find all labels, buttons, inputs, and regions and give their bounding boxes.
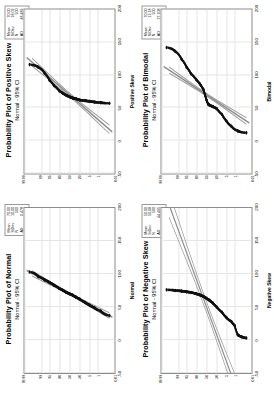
stat-row: Mean50.00 (143, 207, 147, 235)
y-axis-label-wrap: Percent (23, 392, 115, 393)
y-tick-label: 0.01 (250, 175, 254, 181)
x-tick-label: 200 (253, 4, 259, 11)
x-tick-label: 100 (253, 270, 259, 277)
panel-cell-normal: Probability Plot of NormalNormal - 95% C… (0, 199, 137, 399)
plot-area (160, 8, 252, 174)
rotated-panel-normal: Probability Plot of NormalNormal - 95% C… (0, 199, 137, 399)
rotated-panel-positive-skew: Probability Plot of Positive SkewNormal … (0, 0, 137, 199)
y-tick-label: 1 (233, 175, 237, 177)
probability-plot-bimodal: Probability Plot of BimodalNormal - 95% … (137, 0, 274, 199)
series-layer (24, 208, 114, 373)
y-tick-label: 5 (224, 375, 228, 377)
probability-plot-positive-skew: Probability Plot of Positive SkewNormal … (0, 0, 137, 199)
y-tick-label: 50 (67, 375, 71, 379)
probability-plot-negative-skew: Probability Plot of Negative SkewNormal … (137, 199, 274, 399)
ci-edge (32, 66, 109, 133)
y-tick-label: 80 (57, 375, 61, 379)
stat-row: AD27.108 (156, 8, 160, 36)
stat-row: Mean70.00 (6, 207, 10, 233)
stat-key: Mean (143, 222, 147, 235)
stat-key: AD (156, 27, 160, 36)
series-layer (24, 9, 114, 173)
y-tick-label: 5 (87, 175, 91, 177)
x-tick-label: 150 (253, 38, 259, 45)
y-tick-label: 0.01 (113, 175, 117, 181)
ci-edge (169, 67, 246, 118)
stat-value: 70.00 (6, 8, 10, 17)
stat-row: Mean70.00 (6, 8, 10, 36)
x-tick-label: 0 (253, 140, 259, 142)
x-tick-label: 100 (116, 270, 122, 277)
x-tick-label: 50 (253, 105, 259, 110)
stat-value: 50.08 (147, 207, 151, 216)
stat-row: StDev10.00 (10, 207, 14, 233)
stat-value: 27.108 (156, 8, 160, 19)
y-tick-label: 99.99 (21, 375, 25, 383)
stat-row: StDev12.18 (147, 8, 151, 36)
stat-value: 50.00 (143, 207, 147, 216)
y-tick-label: 99.99 (21, 175, 25, 183)
y-tick-label: 99 (175, 375, 179, 379)
panel-cell-bimodal: Probability Plot of BimodalNormal - 95% … (137, 0, 274, 199)
ci-edge (169, 73, 246, 124)
x-axis-label: Positive Skew (128, 8, 134, 174)
y-axis-ticks: 99.999995805020510.01 (160, 374, 252, 393)
stat-row: N500 (151, 207, 155, 235)
data-point (28, 62, 30, 66)
stat-key: AD (156, 226, 160, 235)
y-tick-label: 80 (57, 175, 61, 179)
stat-value: 500 (14, 207, 18, 213)
x-tick-label: 100 (116, 71, 122, 78)
stat-value: 70.00 (6, 207, 10, 216)
x-tick-label: 0 (116, 140, 122, 142)
series-layer (161, 208, 251, 373)
stat-key: AD (19, 224, 23, 233)
y-tick-label: 1 (233, 375, 237, 377)
data-points (165, 288, 247, 340)
data-points (165, 45, 247, 134)
y-tick-label: 20 (214, 375, 218, 379)
stat-key: StDev (147, 221, 151, 235)
ci-edge (169, 218, 246, 374)
y-axis-ticks: 99.999995805020510.01 (23, 374, 115, 393)
stat-row: N500 (151, 8, 155, 36)
x-tick-label: 150 (253, 237, 259, 244)
stat-row: Mean70.00 (143, 8, 147, 36)
stat-row: AD0.478 (19, 207, 23, 233)
rotated-panel-bimodal: Probability Plot of BimodalNormal - 95% … (137, 0, 274, 199)
y-tick-label: 50 (204, 175, 208, 179)
rotated-panel-negative-skew: Probability Plot of Negative SkewNormal … (137, 199, 274, 399)
data-points (28, 62, 110, 104)
data-point (165, 45, 167, 49)
stat-row: StDev16.02 (10, 8, 14, 36)
probability-plot-grid: Probability Plot of Positive SkewNormal … (0, 0, 274, 399)
stat-value: 46.489 (19, 8, 23, 19)
probability-plot-normal: Probability Plot of NormalNormal - 95% C… (0, 199, 137, 399)
ci-edge (32, 271, 109, 313)
stat-key: AD (19, 27, 23, 36)
x-tick-label: 50 (116, 305, 122, 310)
stat-value: 0.478 (19, 207, 23, 216)
panel-cell-positive-skew: Probability Plot of Positive SkewNormal … (0, 0, 137, 199)
x-tick-label: 200 (253, 203, 259, 210)
ci-edge (32, 58, 109, 125)
panel-cell-negative-skew: Probability Plot of Negative SkewNormal … (137, 199, 274, 399)
stat-key: Mean (6, 220, 10, 233)
stat-row: N500 (14, 8, 18, 36)
x-tick-label: 0 (253, 339, 259, 341)
x-tick-label: 50 (116, 105, 122, 110)
stat-key: N (14, 29, 18, 36)
y-tick-label: 99 (175, 175, 179, 179)
stat-value: 70.00 (143, 8, 147, 17)
stat-key: StDev (147, 22, 151, 36)
y-axis-ticks: 99.999995805020510.01 (23, 174, 115, 193)
x-tick-label: 100 (253, 71, 259, 78)
y-tick-label: 80 (194, 375, 198, 379)
y-tick-label: 50 (204, 375, 208, 379)
x-tick-label: 200 (116, 203, 122, 210)
y-axis-label-wrap: Percent (160, 192, 252, 193)
stat-key: Mean (6, 23, 10, 36)
stat-value: 500 (151, 207, 155, 213)
data-points (28, 270, 110, 317)
y-tick-label: 1 (96, 175, 100, 177)
